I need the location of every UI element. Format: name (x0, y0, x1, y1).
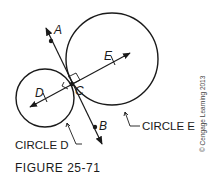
circle-e-label: CIRCLE E (142, 120, 195, 132)
right-angle-mark-lower (62, 82, 68, 89)
circle-d-leader (67, 123, 82, 144)
point-a-dot (49, 39, 53, 43)
point-b-dot (93, 125, 97, 129)
circle-d-label: CIRCLE D (15, 139, 69, 151)
label-d: D (35, 86, 44, 100)
figure-caption: FIGURE 25-71 (15, 161, 100, 175)
label-a: A (53, 23, 62, 37)
diagram-canvas: A B C D E CIRCLE D CIRCLE E FIGURE 25-71… (0, 0, 218, 178)
label-e: E (104, 49, 113, 63)
label-c: C (75, 84, 84, 98)
copyright-notice: © Cengage Learning 2013 (199, 75, 207, 152)
label-b: B (99, 119, 107, 133)
point-c-dot (70, 82, 74, 86)
